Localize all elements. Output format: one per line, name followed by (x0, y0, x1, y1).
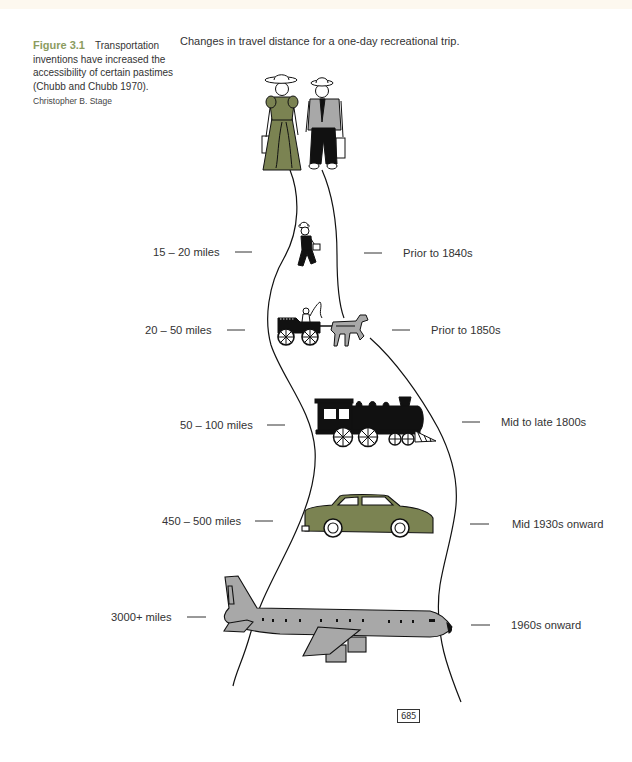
steam-train-icon (315, 397, 436, 447)
wheel (278, 329, 294, 345)
distance-label-train: 50 – 100 miles (180, 418, 253, 432)
couple-with-suitcases-icon (262, 75, 345, 170)
wheel (359, 428, 378, 447)
walker-icon (298, 222, 320, 266)
distance-label-walking: 15 – 20 miles (153, 245, 220, 259)
wheel (389, 433, 401, 445)
page-stamp: 685 (397, 709, 420, 723)
wheel (302, 329, 318, 345)
airplane-icon (224, 576, 452, 662)
wheel (402, 433, 414, 445)
distance-label-carriage: 20 – 50 miles (145, 323, 212, 337)
distance-label-airplane: 3000+ miles (111, 610, 172, 624)
suitcase-icon (336, 138, 345, 158)
wheel (334, 428, 353, 447)
travel-road-illustration (0, 0, 632, 762)
car-icon (302, 495, 433, 538)
distance-label-car: 450 – 500 miles (162, 514, 241, 528)
period-label-car: Mid 1930s onward (512, 517, 603, 531)
period-label-train: Mid to late 1800s (501, 415, 586, 429)
period-label-airplane: 1960s onward (511, 618, 581, 632)
period-label-walking: Prior to 1840s (403, 246, 473, 260)
road-right-edge-upper (322, 170, 344, 318)
period-label-carriage: Prior to 1850s (431, 323, 501, 337)
horse-carriage-icon (278, 302, 368, 346)
